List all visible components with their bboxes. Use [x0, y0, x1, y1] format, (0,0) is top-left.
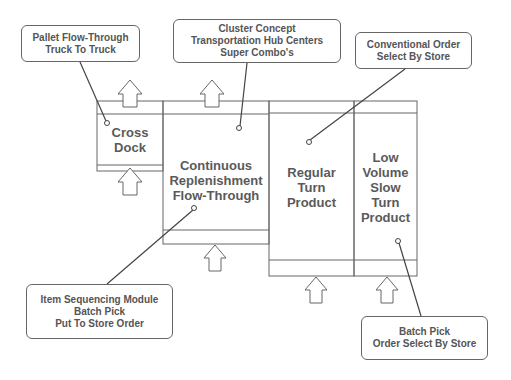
zone-low-volume-label: Low Volume Slow Turn Product	[354, 150, 417, 225]
label-line: Low	[373, 150, 399, 165]
callout-line: Super Combo's	[220, 47, 294, 59]
callout-line: Conventional Order	[367, 39, 460, 51]
callout-line: Order Select By Store	[373, 338, 476, 350]
label-line: Cross	[112, 125, 149, 140]
label-line: Replenishment	[169, 173, 262, 188]
anchor-dot	[396, 239, 401, 244]
callout-line: Batch Pick	[399, 326, 450, 338]
anchor-dot	[237, 126, 242, 131]
label-line: Regular	[287, 165, 335, 180]
callout-line: Cluster Concept	[218, 23, 295, 35]
up-arrow-icon	[305, 277, 327, 303]
label-line: Turn	[372, 195, 400, 210]
up-arrow-icon	[118, 80, 142, 107]
zone-continuous-label: Continuous Replenishment Flow-Through	[163, 150, 269, 210]
label-line: Slow	[370, 180, 400, 195]
label-line: Product	[287, 195, 336, 210]
callout-line: Item Sequencing Module	[41, 294, 159, 306]
zone-regular-label: Regular Turn Product	[269, 165, 354, 210]
callout-conventional-order: Conventional Order Select By Store	[355, 32, 472, 69]
up-arrow-icon	[118, 168, 142, 195]
label-line: Product	[361, 210, 410, 225]
callout-batch-pick: Batch Pick Order Select By Store	[361, 316, 488, 360]
callout-line: Select By Store	[377, 51, 450, 63]
label-line: Volume	[363, 165, 409, 180]
label-line: Continuous	[180, 158, 252, 173]
callout-line: Pallet Flow-Through	[32, 32, 128, 44]
callout-cluster-concept: Cluster Concept Transportation Hub Cente…	[173, 19, 341, 63]
up-arrow-icon	[376, 277, 398, 303]
callout-pallet-flow-through: Pallet Flow-Through Truck To Truck	[21, 25, 140, 62]
label-line: Flow-Through	[173, 188, 260, 203]
callout-item-sequencing: Item Sequencing Module Batch Pick Put To…	[26, 284, 173, 339]
callout-line: Put To Store Order	[55, 318, 144, 330]
callout-line: Transportation Hub Centers	[191, 35, 323, 47]
callout-line: Truck To Truck	[45, 44, 115, 56]
callout-line: Batch Pick	[74, 306, 125, 318]
label-line: Turn	[298, 180, 326, 195]
up-arrow-icon	[200, 80, 224, 107]
up-arrow-icon	[204, 245, 226, 271]
label-line: Dock	[114, 140, 146, 155]
anchor-dot	[307, 140, 312, 145]
zone-cross-dock-label: Cross Dock	[97, 114, 163, 165]
